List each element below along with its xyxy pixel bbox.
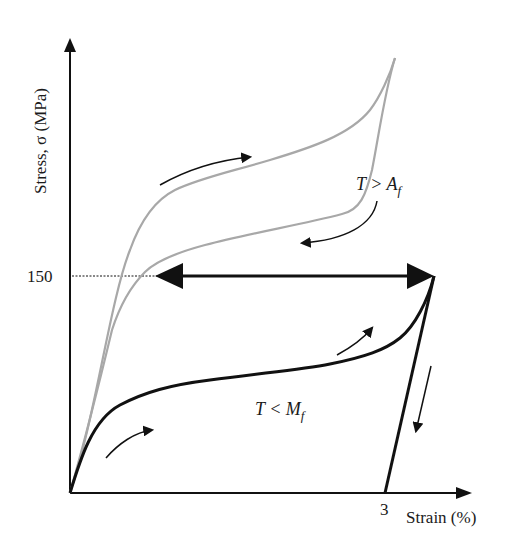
- arrow-cold-unloading-icon: [416, 366, 431, 431]
- arrowhead-left-icon: [155, 263, 183, 289]
- shape-memory-loading-curve: [70, 276, 434, 493]
- x-tick-3: 3: [380, 500, 389, 519]
- arrow-hot-unloading-icon: [302, 201, 377, 243]
- shape-memory-curve: [70, 276, 434, 493]
- double-headed-arrow: [155, 263, 434, 289]
- arrow-cold-loading-icon: [337, 328, 372, 355]
- x-axis-arrow-icon: [456, 487, 472, 499]
- arrow-cold-start-icon: [106, 430, 152, 458]
- y-tick-150: 150: [27, 267, 53, 286]
- y-axis-arrow-icon: [64, 38, 76, 52]
- y-axis-label: Stress, σ (MPa): [31, 88, 50, 194]
- x-axis-label: Strain (%): [406, 508, 476, 527]
- arrow-hot-loading-icon: [160, 157, 250, 185]
- stress-strain-diagram: Stress, σ (MPa) Strain (%) 150 3 T > Af …: [0, 0, 516, 556]
- label-cold-condition: T < Mf: [255, 399, 307, 423]
